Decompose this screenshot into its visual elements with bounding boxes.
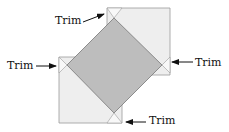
label-top: Trim (55, 14, 82, 27)
label-bottom: Trim (149, 114, 176, 127)
label-left: Trim (7, 59, 34, 72)
arrow-top (83, 14, 104, 22)
trim-diagram: Trim Trim Trim Trim (0, 0, 229, 132)
label-right: Trim (195, 56, 222, 69)
